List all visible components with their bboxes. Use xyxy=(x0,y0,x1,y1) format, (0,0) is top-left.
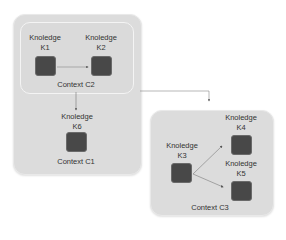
context-c2-label: Context C2 xyxy=(46,80,106,89)
context-c3-label: Context C3 xyxy=(180,203,240,212)
knowledge-k6-id: K6 xyxy=(52,122,102,132)
knowledge-k4-node[interactable] xyxy=(231,135,252,155)
knowledge-k5-node[interactable] xyxy=(231,181,252,201)
knowledge-k5-id: K5 xyxy=(216,169,266,179)
knowledge-k6-node[interactable] xyxy=(66,132,87,152)
knowledge-k3-title: Knoledge xyxy=(157,141,207,151)
knowledge-k4-title: Knoledge xyxy=(216,113,266,123)
knowledge-k5-title: Knoledge xyxy=(216,159,266,169)
knowledge-k2-title: Knoledge xyxy=(76,33,126,43)
edge-c1-c3 xyxy=(140,91,209,101)
knowledge-k1-id: K1 xyxy=(20,43,70,53)
knowledge-k1-node[interactable] xyxy=(35,56,56,76)
knowledge-k3-id: K3 xyxy=(157,151,207,161)
knowledge-k2-id: K2 xyxy=(76,43,126,53)
knowledge-k2-node[interactable] xyxy=(91,56,112,76)
knowledge-k6-title: Knoledge xyxy=(52,112,102,122)
knowledge-k3-node[interactable] xyxy=(171,163,192,183)
knowledge-k1-title: Knoledge xyxy=(20,33,70,43)
context-c1-label: Context C1 xyxy=(46,157,106,166)
knowledge-k4-id: K4 xyxy=(216,123,266,133)
